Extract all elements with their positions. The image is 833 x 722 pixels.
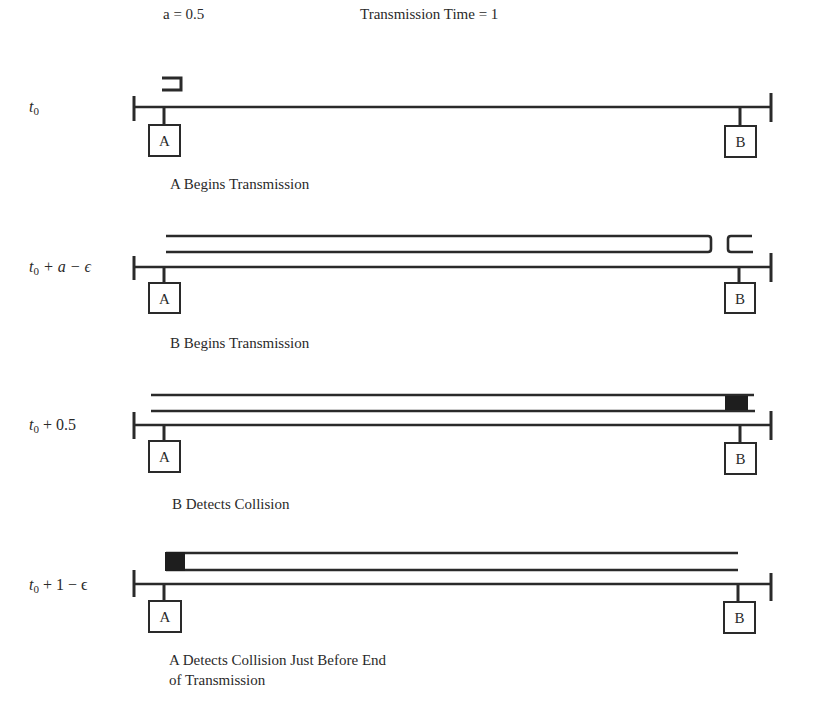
time-label-panel-4: t0 + 1 − ϵ [29, 576, 87, 595]
collision-block-a [165, 552, 185, 571]
caption-panel-2: B Begins Transmission [170, 333, 309, 353]
station-b-label: B [735, 134, 745, 150]
time-label-panel-3: t0 + 0.5 [29, 416, 76, 435]
panel-3-bus [134, 395, 771, 474]
caption-line-2: of Transmission [169, 670, 386, 690]
signal-front-a [162, 78, 181, 90]
panel-4-bus [134, 553, 771, 633]
caption-panel-4: A Detects Collision Just Before End of T… [169, 650, 386, 690]
station-a-label: A [159, 133, 170, 149]
station-a-label: A [160, 609, 171, 625]
signal-a [166, 236, 711, 252]
caption-panel-3: B Detects Collision [172, 494, 290, 514]
station-b-label: B [735, 451, 745, 467]
panel-2-bus [134, 236, 771, 313]
collision-block-b [725, 396, 748, 410]
caption-line-1: A Detects Collision Just Before End [169, 650, 386, 670]
station-b-label: B [735, 291, 745, 307]
time-label-panel-1: t0 [29, 98, 39, 117]
csma-cd-timing-diagram: A B A B A B A B [0, 0, 833, 722]
station-b-label: B [734, 610, 744, 626]
station-a-label: A [159, 449, 170, 465]
signal-front-b [728, 236, 753, 252]
time-label-panel-2: t0 + a − ϵ [29, 258, 91, 277]
panel-1-bus [134, 78, 771, 157]
station-a-label: A [159, 291, 170, 307]
caption-panel-1: A Begins Transmission [170, 174, 309, 194]
